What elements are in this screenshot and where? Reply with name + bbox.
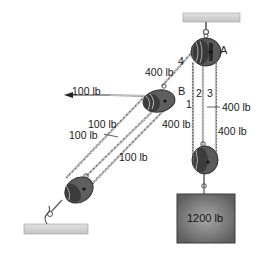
force-label-left-100-a: 100 lb [88,119,117,130]
ropes-vertical [193,62,216,154]
pulley-diagram: A B 4 2 3 1 400 lb 100 lb 400 lb 400 lb … [0,0,265,257]
force-label-left-100-b: 100 lb [69,130,98,141]
pulley-b [141,84,176,115]
force-label-pull-100: 100 lb [72,86,101,97]
ceiling-support [183,13,240,35]
floor-support [24,200,88,234]
rope-label-1: 1 [186,99,192,110]
force-label-right-400-lower: 400 lb [218,126,247,137]
rope-label-2: 2 [196,88,202,99]
pulley-label-b: B [178,86,185,97]
load-label: 1200 lb [187,213,223,224]
force-label-right-400-upper: 400 lb [222,102,251,113]
pulley-a [191,34,221,66]
rope-label-3: 3 [207,88,213,99]
pulley-lower-right [192,142,218,194]
pulley-label-a: A [220,45,227,56]
force-label-upper-left-400: 400 lb [145,67,174,78]
rope-label-4: 4 [178,56,184,67]
force-label-lower-100: 100 lb [119,152,148,163]
force-label-mid-400: 400 lb [162,119,191,130]
